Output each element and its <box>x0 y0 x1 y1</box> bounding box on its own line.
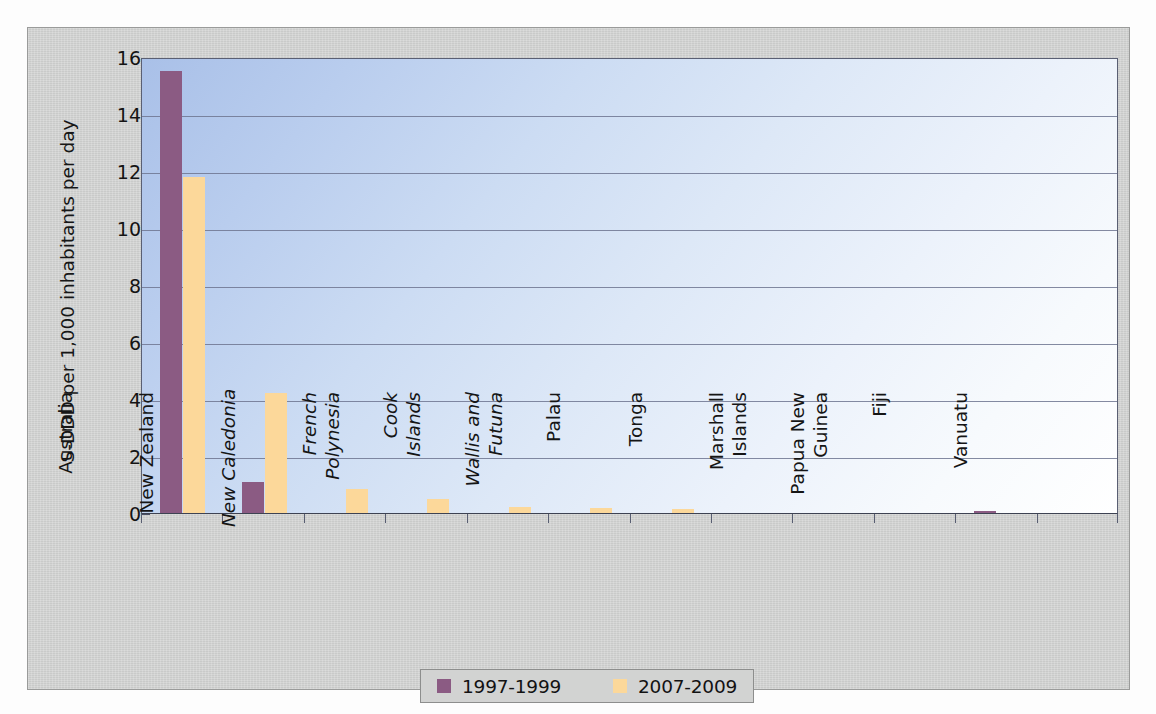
legend-item: 2007-2009 <box>613 676 737 697</box>
x-axis-labels: AustraliaNew ZealandNew CaledoniaFrenchP… <box>141 523 1118 668</box>
x-axis-label-line: Cook <box>380 392 401 438</box>
legend-swatch-icon <box>437 679 451 693</box>
x-axis-label-line: Marshall <box>706 392 727 470</box>
x-axis-label: Tonga <box>625 392 649 527</box>
x-axis-label: New Zealand <box>136 392 160 527</box>
x-axis-label: CookIslands <box>380 392 404 527</box>
bar <box>590 508 612 513</box>
x-axis-label: FrenchPolynesia <box>299 392 323 527</box>
bar <box>242 482 264 513</box>
y-axis-tick-label: 12 <box>95 161 141 183</box>
x-axis-label: Fiji <box>869 392 893 527</box>
legend-label: 1997-1999 <box>462 676 561 697</box>
bar <box>183 177 205 513</box>
x-axis-label: Vanuatu <box>950 392 974 527</box>
y-axis-ticks: 0246810121416 <box>80 58 141 514</box>
x-axis-label-line: Islands <box>403 392 425 527</box>
chart-frame: S-DDD per 1,000 inhabitants per day 0246… <box>27 27 1130 690</box>
x-axis-label-line: Wallis and <box>462 392 483 486</box>
x-axis-label: New Caledonia <box>218 392 242 527</box>
x-axis-label-line: Palau <box>543 392 564 442</box>
bar <box>427 499 449 513</box>
y-axis-tick-label: 6 <box>95 332 141 354</box>
y-axis-tick-label: 0 <box>95 503 141 525</box>
x-axis-label-line: New Zealand <box>136 392 157 514</box>
x-axis-label-line: Vanuatu <box>950 392 971 468</box>
x-axis-label: Papua NewGuinea <box>787 392 811 527</box>
legend-item: 1997-1999 <box>437 676 561 697</box>
bar <box>160 71 182 513</box>
x-axis-label-line: Guinea <box>810 392 832 527</box>
x-axis-label-line: Tonga <box>625 392 646 446</box>
y-axis-tick-label: 14 <box>95 104 141 126</box>
x-axis-label: MarshallIslands <box>706 392 730 527</box>
y-axis-tick-label: 8 <box>95 275 141 297</box>
x-axis-label: Australia <box>55 392 79 527</box>
y-axis-tick-label: 2 <box>95 446 141 468</box>
bar <box>509 507 531 513</box>
x-axis-label-line: Islands <box>729 392 751 527</box>
y-axis-tick-label: 16 <box>95 47 141 69</box>
bar <box>672 509 694 513</box>
x-axis-label: Palau <box>543 392 567 527</box>
bar <box>974 511 996 513</box>
x-axis-tick-mark <box>1037 514 1038 523</box>
x-axis-label-line: Australia <box>55 392 76 474</box>
x-axis-tick-mark <box>1117 514 1118 523</box>
legend-label: 2007-2009 <box>638 676 737 697</box>
x-axis-label-line: Fiji <box>869 392 890 417</box>
chart-page: S-DDD per 1,000 inhabitants per day 0246… <box>0 0 1156 714</box>
bar <box>346 489 368 513</box>
x-axis-label-line: Futuna <box>485 392 507 527</box>
x-axis-label-line: French <box>299 392 320 455</box>
x-axis-label: Wallis andFutuna <box>462 392 486 527</box>
bar <box>265 393 287 513</box>
y-axis-tick-label: 10 <box>95 218 141 240</box>
chart-legend: 1997-19992007-2009 <box>420 669 754 703</box>
x-axis-label-line: Papua New <box>787 392 808 495</box>
x-axis-label-line: New Caledonia <box>218 389 239 527</box>
x-axis-label-line: Polynesia <box>322 392 344 527</box>
legend-swatch-icon <box>613 679 627 693</box>
y-axis-tick-label: 4 <box>95 389 141 411</box>
